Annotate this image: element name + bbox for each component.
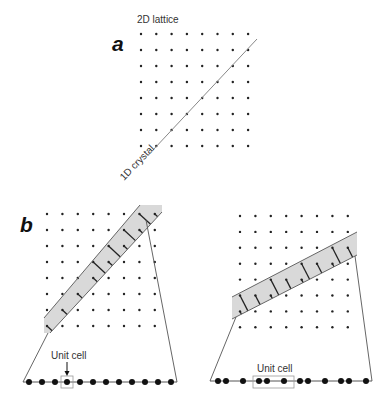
chain-atom xyxy=(168,379,174,385)
lattice-dot xyxy=(300,326,302,328)
lattice-dot xyxy=(46,229,48,231)
lattice-dot xyxy=(239,278,241,280)
lattice-dot xyxy=(155,49,157,51)
lattice-dot xyxy=(107,325,109,327)
lattice-dot xyxy=(186,49,188,51)
lattice-dot xyxy=(123,277,125,279)
lattice-dot xyxy=(316,310,318,312)
lattice-dot xyxy=(186,33,188,35)
lattice-dot xyxy=(107,213,109,215)
chain-atom xyxy=(223,378,229,384)
lattice-dot xyxy=(300,310,302,312)
lattice-dot xyxy=(316,294,318,296)
lattice-dot xyxy=(232,129,234,131)
lattice-dot xyxy=(232,145,234,147)
lattice-dot xyxy=(316,278,318,280)
lattice-dot xyxy=(247,65,249,67)
lattice-dot xyxy=(285,326,287,328)
chain-atom xyxy=(129,379,135,385)
chain-atom xyxy=(26,379,32,385)
lattice-dot xyxy=(232,49,234,51)
chain-atom xyxy=(90,379,96,385)
lattice-dot xyxy=(201,129,203,131)
lattice-dot xyxy=(46,245,48,247)
lattice-dot xyxy=(123,213,125,215)
lattice-dot xyxy=(92,293,94,295)
lattice-dot xyxy=(140,97,142,99)
lattice-dot xyxy=(347,294,349,296)
lattice-dot xyxy=(254,278,256,280)
lattice-dot xyxy=(216,129,218,131)
label-2d-lattice: 2D lattice xyxy=(137,14,179,25)
lattice-dot xyxy=(138,309,140,311)
lattice-dot xyxy=(107,229,109,231)
lattice-dot xyxy=(155,97,157,99)
lattice-dot xyxy=(123,293,125,295)
lattice-dot xyxy=(155,81,157,83)
band-edge-line xyxy=(44,205,140,318)
chain-atom xyxy=(116,379,122,385)
lattice-dot xyxy=(92,245,94,247)
fan-line xyxy=(355,256,372,381)
lattice-dot xyxy=(347,310,349,312)
lattice-dot xyxy=(77,213,79,215)
lattice-dot xyxy=(201,145,203,147)
lattice-dot xyxy=(239,263,241,265)
lattice-dot xyxy=(247,129,249,131)
lattice-dot xyxy=(138,325,140,327)
lattice-dot xyxy=(331,294,333,296)
lattice-dot xyxy=(270,310,272,312)
label-unit-cell: Unit cell xyxy=(51,350,87,361)
label-unit-cell: Unit cell xyxy=(257,363,293,374)
lattice-dot xyxy=(285,263,287,265)
lattice-dot xyxy=(138,245,140,247)
lattice-dot xyxy=(331,310,333,312)
lattice-dot xyxy=(77,309,79,311)
lattice-2d-dots xyxy=(140,33,250,147)
lattice-dot xyxy=(107,277,109,279)
fan-line xyxy=(146,220,177,382)
projection-band xyxy=(44,205,162,333)
chain-atom xyxy=(103,379,109,385)
lattice-dot xyxy=(285,294,287,296)
chain-atom xyxy=(52,379,58,385)
lattice-dot xyxy=(347,326,349,328)
lattice-dot xyxy=(61,277,63,279)
lattice-dot xyxy=(347,278,349,280)
lattice-dot xyxy=(154,309,156,311)
lattice-dot xyxy=(123,325,125,327)
lattice-dot xyxy=(232,113,234,115)
chain-atom xyxy=(256,378,262,384)
lattice-dot xyxy=(239,215,241,217)
chain-atom xyxy=(142,379,148,385)
chain-atom xyxy=(240,378,246,384)
lattice-dot xyxy=(216,49,218,51)
lattice-dot xyxy=(331,326,333,328)
lattice-dot xyxy=(316,326,318,328)
label-1d-crystal: 1D crystal xyxy=(118,143,157,183)
lattice-dot xyxy=(123,309,125,311)
lattice-dot xyxy=(239,231,241,233)
lattice-dot xyxy=(77,245,79,247)
lattice-dot xyxy=(254,326,256,328)
lattice-dot xyxy=(201,49,203,51)
chain-atom xyxy=(155,379,161,385)
lattice-dot xyxy=(186,97,188,99)
chain-atom xyxy=(305,378,311,384)
lattice-dot xyxy=(316,247,318,249)
lattice-dot xyxy=(154,245,156,247)
lattice-dot xyxy=(155,65,157,67)
lattice-dot xyxy=(247,81,249,83)
lattice-dot xyxy=(77,325,79,327)
lattice-dot xyxy=(247,113,249,115)
lattice-dot xyxy=(186,129,188,131)
lattice-dot xyxy=(92,213,94,215)
panel-letter-b: b xyxy=(20,213,33,236)
lattice-dot xyxy=(138,261,140,263)
lattice-dot xyxy=(347,215,349,217)
lattice-dot xyxy=(285,215,287,217)
lattice-dot xyxy=(300,215,302,217)
lattice-dot xyxy=(92,325,94,327)
lattice-dot xyxy=(316,231,318,233)
lattice-dot xyxy=(140,113,142,115)
